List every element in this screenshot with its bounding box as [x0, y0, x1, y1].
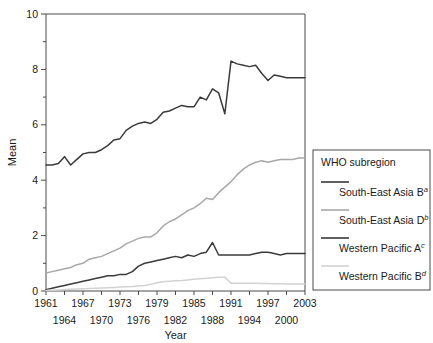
x-tick-label-lower: 1964 — [53, 314, 77, 326]
x-tick-label-upper: 1967 — [71, 297, 95, 309]
plot-frame — [46, 14, 305, 291]
y-axis-title: Mean — [6, 139, 18, 167]
y-tick-label: 8 — [32, 63, 38, 75]
legend-title: WHO subregion — [321, 156, 396, 168]
legend-label-2: South-East Asia Db — [339, 213, 428, 227]
x-tick-label-upper: 1991 — [219, 297, 243, 309]
y-tick-label: 10 — [26, 8, 38, 20]
legend-label-4: Western Pacific Bd — [339, 269, 427, 283]
y-tick-label: 6 — [32, 118, 38, 130]
legend-label-3: Western Pacific Ac — [339, 241, 425, 255]
x-tick-label-lower: 1982 — [164, 314, 188, 326]
x-tick-label-lower: 1970 — [90, 314, 114, 326]
x-tick-label-lower: 2000 — [275, 314, 299, 326]
x-tick-label-upper: 1979 — [145, 297, 169, 309]
x-tick-label-upper: 1961 — [34, 297, 58, 309]
y-tick-label: 2 — [32, 229, 38, 241]
series-line-south-east-asia-b — [46, 61, 305, 165]
x-tick-label-upper: 1985 — [182, 297, 206, 309]
x-tick-label-lower: 1988 — [201, 314, 225, 326]
series-line-western-pacific-a — [46, 243, 305, 290]
line-chart: 0246810196119671973197919851991199720031… — [0, 0, 433, 343]
legend-label-1: South-East Asia Ba — [339, 185, 428, 199]
x-tick-label-lower: 1976 — [127, 314, 151, 326]
x-tick-label-upper: 1973 — [108, 297, 132, 309]
x-axis-title: Year — [164, 329, 187, 341]
x-tick-label-upper: 2003 — [293, 297, 317, 309]
chart-figure: 0246810196119671973197919851991199720031… — [0, 0, 433, 343]
y-tick-label: 0 — [32, 285, 38, 297]
x-tick-label-lower: 1994 — [238, 314, 262, 326]
series-line-western-pacific-b — [46, 277, 305, 290]
y-tick-label: 4 — [32, 174, 38, 186]
x-tick-label-upper: 1997 — [256, 297, 280, 309]
